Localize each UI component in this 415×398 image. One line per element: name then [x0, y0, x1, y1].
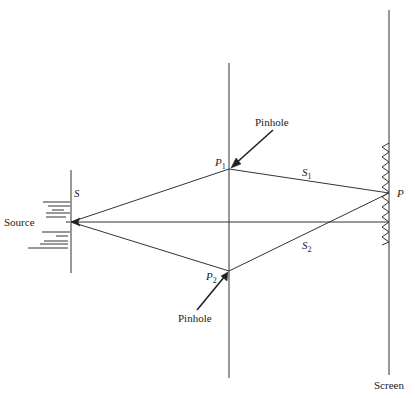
p2-label: P2	[206, 271, 217, 285]
s1-label: S1	[302, 167, 312, 181]
ray-source-p2	[71, 222, 229, 271]
pinhole-top-label: Pinhole	[255, 117, 289, 128]
screen-point-label: P	[397, 188, 404, 199]
pinhole-bottom-label: Pinhole	[178, 313, 212, 324]
interference-diagram	[0, 0, 415, 398]
screen-label: Screen	[374, 380, 404, 391]
p1-sub: 1	[222, 162, 226, 171]
p2-main: P	[206, 270, 213, 282]
source-label: Source	[4, 217, 35, 228]
p2-sub: 2	[213, 276, 217, 285]
s1-sub: 1	[308, 172, 312, 181]
s2-sub: 2	[308, 245, 312, 254]
p1-label: P1	[215, 157, 226, 171]
s2-label: S2	[302, 240, 312, 254]
source-point-label: S	[74, 188, 80, 199]
pinhole-top-arrow	[234, 130, 273, 165]
ray-source-p1	[71, 169, 229, 222]
ray-s2	[229, 193, 389, 271]
p1-main: P	[215, 156, 222, 168]
